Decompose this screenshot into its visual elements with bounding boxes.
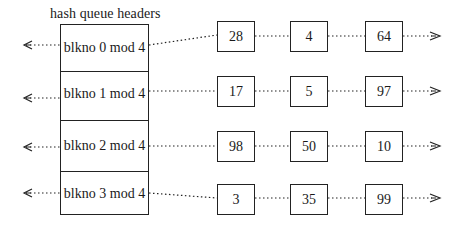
buffer-node: 4 [290,21,328,52]
header-cell-2: blkno 2 mod 4 [61,121,148,172]
arrow-right-icon [430,194,440,202]
buffer-node: 5 [290,76,328,107]
buffer-node: 17 [217,76,255,107]
arrow-left-icon [24,94,32,102]
header-cell-1: blkno 1 mod 4 [61,72,148,121]
buffer-node: 35 [290,184,328,215]
header-label: blkno 1 mod 4 [64,86,145,102]
header-label: blkno 3 mod 4 [64,186,145,202]
buffer-node: 98 [217,131,255,162]
buffer-node: 97 [365,76,403,107]
buffer-node: 10 [365,131,403,162]
arrow-right-icon [430,32,440,40]
buffer-node: 99 [365,184,403,215]
header-cell-3: blkno 3 mod 4 [61,172,148,214]
arrow-left-icon [24,189,32,197]
buffer-node: 28 [217,21,255,52]
buffer-node: 3 [217,184,255,215]
arrow-right-icon [430,87,440,95]
arrow-right-icon [430,142,440,150]
hash-queue-headers: blkno 0 mod 4 blkno 1 mod 4 blkno 2 mod … [60,24,149,215]
buffer-node: 64 [365,21,403,52]
buffer-node: 50 [290,131,328,162]
header-cell-0: blkno 0 mod 4 [61,25,148,72]
arrow-left-icon [24,41,32,49]
header-label: blkno 2 mod 4 [64,138,145,154]
header-label: blkno 0 mod 4 [64,40,145,56]
arrow-left-icon [24,143,32,151]
